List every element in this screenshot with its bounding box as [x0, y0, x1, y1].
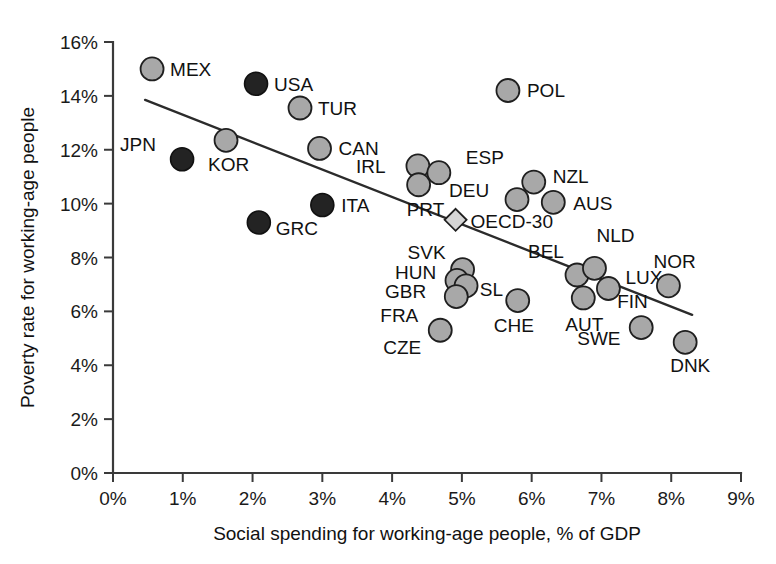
x-tick-label: 3% — [309, 488, 337, 509]
point-label-nor: NOR — [653, 251, 695, 272]
data-marker-nld — [583, 257, 606, 280]
y-tick-label: 12% — [60, 140, 98, 161]
point-label-che: CHE — [494, 315, 534, 336]
data-marker-ita — [311, 193, 334, 216]
x-tick-label: 5% — [448, 488, 476, 509]
data-marker-nor — [657, 274, 680, 297]
data-marker-oecd-30 — [445, 209, 467, 231]
point-label-fin: FIN — [617, 291, 648, 312]
x-tick-label: 8% — [657, 488, 685, 509]
point-label-deu: DEU — [449, 180, 489, 201]
x-tick-label: 1% — [169, 488, 197, 509]
point-label-usa: USA — [274, 74, 313, 95]
x-tick-label: 9% — [727, 488, 755, 509]
point-label-ita: ITA — [341, 195, 369, 216]
data-marker-kor — [215, 129, 238, 152]
y-tick-label: 10% — [60, 194, 98, 215]
x-tick-label: 0% — [99, 488, 127, 509]
y-tick-label: 4% — [71, 355, 99, 376]
y-tick-label: 0% — [71, 463, 99, 484]
point-label-fra: FRA — [380, 305, 418, 326]
point-label-jpn: JPN — [120, 134, 156, 155]
point-label-nld: NLD — [596, 225, 634, 246]
x-tick-label: 2% — [239, 488, 267, 509]
point-label-bel: BEL — [528, 241, 564, 262]
point-label-sl: SL — [480, 279, 503, 300]
y-tick-label: 14% — [60, 86, 98, 107]
point-label-aus: AUS — [573, 193, 612, 214]
point-label-cze: CZE — [383, 337, 421, 358]
point-label-oecd-30: OECD-30 — [471, 211, 553, 232]
data-marker-aut — [572, 286, 595, 309]
data-marker-nzl — [522, 171, 545, 194]
data-points: MEXUSATURPOLJPNKORCANIRLESPPRTDEUNZLAUSI… — [120, 57, 711, 376]
point-label-kor: KOR — [208, 154, 249, 175]
data-marker-jpn — [171, 148, 194, 171]
point-label-gbr: GBR — [385, 281, 426, 302]
y-tick-label: 16% — [60, 32, 98, 53]
point-label-prt: PRT — [407, 199, 445, 220]
point-label-dnk: DNK — [670, 355, 710, 376]
data-marker-sl — [506, 289, 529, 312]
chart-svg: 0%2%4%6%8%10%12%14%16%0%1%2%3%4%5%6%7%8%… — [0, 0, 776, 564]
x-tick-label: 4% — [378, 488, 406, 509]
point-label-irl: IRL — [356, 156, 386, 177]
scatter-chart: 0%2%4%6%8%10%12%14%16%0%1%2%3%4%5%6%7%8%… — [0, 0, 776, 564]
data-marker-dnk — [674, 331, 697, 354]
y-axis-title: Poverty rate for working-age people — [17, 107, 38, 408]
x-tick-label: 6% — [518, 488, 546, 509]
point-label-grc: GRC — [276, 218, 318, 239]
point-label-swe: SWE — [577, 328, 620, 349]
point-label-mex: MEX — [170, 59, 212, 80]
data-marker-mex — [141, 57, 164, 80]
point-label-nzl: NZL — [553, 166, 589, 187]
x-axis-title: Social spending for working-age people, … — [213, 523, 641, 544]
y-tick-label: 2% — [71, 409, 99, 430]
y-tick-label: 6% — [71, 301, 99, 322]
data-marker-pol — [496, 79, 519, 102]
x-tick-label: 7% — [588, 488, 616, 509]
data-marker-fra — [445, 285, 468, 308]
data-marker-deu — [506, 188, 529, 211]
data-marker-fin — [630, 316, 653, 339]
data-marker-prt — [407, 173, 430, 196]
data-marker-tur — [289, 96, 312, 119]
data-marker-grc — [247, 211, 270, 234]
point-label-tur: TUR — [318, 98, 357, 119]
data-marker-cze — [429, 319, 452, 342]
data-marker-usa — [245, 72, 268, 95]
point-label-pol: POL — [527, 80, 565, 101]
point-label-svk: SVK — [408, 242, 446, 263]
data-marker-esp — [427, 161, 450, 184]
data-marker-can — [308, 137, 331, 160]
y-tick-label: 8% — [71, 248, 99, 269]
point-label-esp: ESP — [466, 147, 504, 168]
